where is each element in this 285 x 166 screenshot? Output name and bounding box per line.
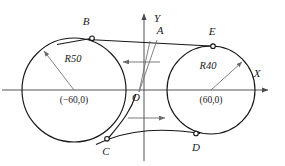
center-label-right: (60,0): [200, 95, 223, 106]
figure-canvas: B A E C D Y X O R50 R40 (−60,0) (60,0): [0, 0, 285, 166]
origin-label: O: [132, 91, 140, 103]
center-label-left: (−60,0): [60, 95, 88, 106]
leader-line-a-second: [139, 41, 150, 92]
point-marker-d: [194, 131, 199, 136]
point-label-c: C: [102, 145, 110, 157]
point-marker-c: [105, 137, 110, 142]
radius-label-right: R40: [199, 60, 218, 71]
geometry-diagram: B A E C D Y X O R50 R40 (−60,0) (60,0): [0, 0, 285, 166]
point-label-b: B: [83, 15, 90, 27]
point-label-d: D: [191, 141, 200, 153]
y-axis-label: Y: [154, 12, 162, 24]
point-label-a: A: [156, 24, 164, 36]
x-axis-label: X: [253, 67, 262, 79]
upper-tangent-line: [88, 40, 215, 47]
point-label-e: E: [208, 25, 216, 37]
lower-tangent-arc: [96, 130, 200, 144]
leader-line-a: [139, 40, 157, 92]
point-marker-b: [90, 36, 95, 41]
point-marker-e: [211, 44, 216, 49]
radius-label-left: R50: [64, 53, 83, 64]
